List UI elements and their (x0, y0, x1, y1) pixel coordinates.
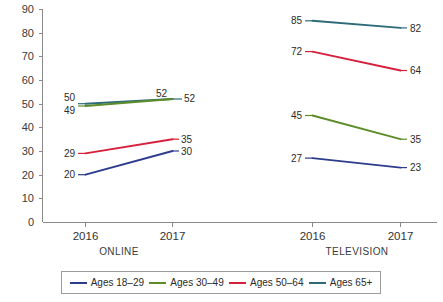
value-online-ages-18-29-2016: 20 (64, 169, 76, 180)
value-online-ages-18-29-2017: 30 (181, 146, 193, 157)
chart-legend: Ages 18–29 Ages 30–49 Ages 50–64 Ages 65… (61, 271, 381, 294)
value-television-ages-50-64-2017: 64 (410, 65, 422, 76)
legend-label-ages-30-49: Ages 30–49 (170, 277, 223, 288)
y-tick-label-20: 20 (22, 169, 34, 181)
x-tick-label-online-2016: 2016 (73, 230, 99, 242)
line-television-ages-18-29 (313, 158, 401, 168)
value-online-ages-65-plus-2017: 52 (184, 93, 196, 104)
legend-swatch-icon-ages-50-64 (229, 282, 246, 284)
x-tick-label-television-2016: 2016 (300, 230, 326, 242)
panel-label-online: ONLINE (99, 246, 139, 257)
y-tick-label-30: 30 (22, 145, 34, 157)
legend-swatch-icon-ages-65-plus (309, 282, 326, 284)
y-tick-label-0: 0 (28, 216, 34, 228)
y-tick-label-10: 10 (22, 192, 34, 204)
legend-label-ages-18-29: Ages 18–29 (91, 277, 144, 288)
line-online-ages-18-29 (86, 151, 173, 175)
legend-swatch-icon-ages-18-29 (70, 282, 87, 284)
legend-item-ages-18-29[interactable]: Ages 18–29 (70, 277, 144, 288)
legend-label-ages-65-plus: Ages 65+ (330, 277, 373, 288)
value-television-ages-50-64-2016: 72 (291, 46, 303, 57)
y-tick-label-80: 80 (22, 27, 34, 39)
value-online-ages-50-64-2017: 35 (181, 134, 193, 145)
x-tick-label-television-2017: 2017 (388, 230, 414, 242)
value-online-ages-50-64-2016: 29 (64, 148, 76, 159)
line-television-ages-65-plus (313, 21, 401, 28)
legend-swatch-icon-ages-30-49 (149, 282, 166, 284)
legend-item-ages-30-49[interactable]: Ages 30–49 (149, 277, 223, 288)
value-television-ages-18-29-2017: 23 (410, 162, 422, 173)
value-television-ages-30-49-2016: 45 (291, 110, 303, 121)
y-tick-label-50: 50 (22, 98, 34, 110)
slope-chart: 90 80 70 60 50 40 30 20 10 0 2016 2017 2… (0, 0, 443, 302)
value-television-ages-18-29-2016: 27 (291, 153, 303, 164)
x-tick-label-online-2017: 2017 (160, 230, 186, 242)
value-online-ages-30-49-2016: 49 (64, 105, 76, 116)
chart-canvas: 90 80 70 60 50 40 30 20 10 0 2016 2017 2… (0, 0, 443, 302)
line-television-ages-50-64 (313, 52, 401, 71)
value-television-ages-30-49-2017: 35 (410, 134, 422, 145)
value-online-ages-30-49-2017: 52 (156, 88, 168, 99)
value-television-ages-65-plus-2016: 85 (291, 15, 303, 26)
value-television-ages-65-plus-2017: 82 (410, 23, 422, 34)
value-online-ages-65-plus-2016: 50 (64, 92, 76, 103)
y-tick-label-40: 40 (22, 121, 34, 133)
panel-label-television: TELEVISION (326, 246, 389, 257)
legend-item-ages-50-64[interactable]: Ages 50–64 (229, 277, 303, 288)
y-tick-label-60: 60 (22, 74, 34, 86)
y-tick-label-70: 70 (22, 50, 34, 62)
line-online-ages-50-64 (86, 139, 173, 153)
legend-item-ages-65-plus[interactable]: Ages 65+ (309, 277, 373, 288)
line-television-ages-30-49 (313, 116, 401, 140)
legend-label-ages-50-64: Ages 50–64 (250, 277, 303, 288)
y-tick-label-90: 90 (22, 3, 34, 15)
